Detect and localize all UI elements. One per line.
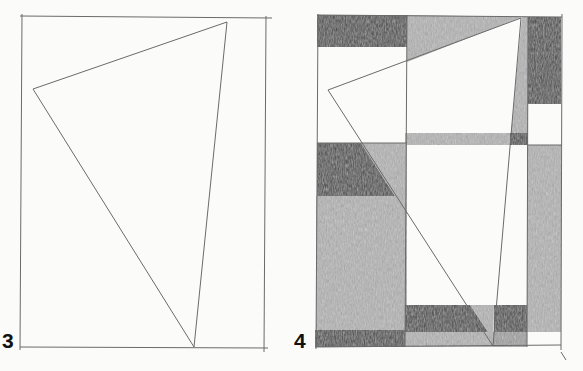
- pencil-tick: [561, 352, 566, 360]
- block-top-mid-light: [407, 15, 522, 62]
- block-bottom-left-dark: [315, 330, 407, 347]
- band-mid-light: [405, 133, 511, 145]
- frame-right: [561, 14, 562, 350]
- panel-3-drawing: [20, 14, 272, 352]
- block-top-left-dark: [317, 15, 407, 47]
- frame-bottom: [20, 347, 268, 348]
- panel-label-3: 3: [2, 329, 14, 353]
- block-right-column-light: [527, 145, 561, 332]
- frame-top: [20, 16, 272, 18]
- panel-label-4: 4: [294, 329, 306, 353]
- panel-4-shading: [315, 15, 561, 347]
- block-bottom-corner-light: [493, 332, 527, 347]
- block-left-big-light: [316, 196, 407, 330]
- block-junction-dark: [510, 133, 528, 145]
- triangle-outline: [33, 22, 227, 347]
- frame-right: [264, 16, 266, 352]
- sketch-canvas: [0, 0, 583, 371]
- block-bottom-right-dark: [494, 305, 527, 332]
- block-bottom-strip-light: [405, 332, 493, 347]
- block-top-right-dark: [528, 17, 561, 104]
- frame-left: [20, 14, 22, 350]
